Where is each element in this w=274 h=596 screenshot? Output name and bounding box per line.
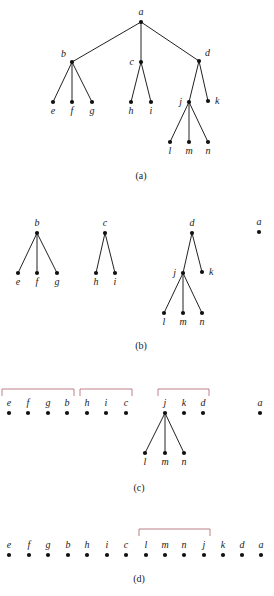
edge-d-j bbox=[189, 61, 199, 102]
node-j bbox=[181, 271, 185, 275]
node-n bbox=[182, 451, 186, 455]
node-label-a: a bbox=[139, 6, 144, 17]
node-d bbox=[197, 59, 201, 63]
edge-d-j bbox=[183, 233, 192, 273]
node-label-c: c bbox=[124, 397, 129, 408]
edge-j-l bbox=[145, 413, 165, 453]
node-l bbox=[162, 311, 166, 315]
node-k bbox=[200, 270, 204, 274]
node-label-c: c bbox=[124, 539, 129, 550]
node-f bbox=[27, 553, 31, 557]
node-e bbox=[51, 100, 55, 104]
node-e bbox=[7, 411, 11, 415]
node-j bbox=[187, 100, 191, 104]
node-a bbox=[259, 553, 263, 557]
node-j bbox=[163, 411, 167, 415]
edge-j-n bbox=[189, 102, 208, 142]
panel-caption: (b) bbox=[135, 340, 147, 352]
node-l bbox=[143, 451, 147, 455]
node-c bbox=[139, 60, 143, 64]
panel-b-root-removed: bcdaefghijklmn(b) bbox=[16, 216, 262, 352]
node-label-n: n bbox=[182, 456, 187, 467]
node-label-j: j bbox=[162, 397, 167, 408]
node-label-f: f bbox=[71, 105, 75, 116]
node-label-j: j bbox=[177, 96, 182, 107]
edge-b-g bbox=[72, 62, 92, 102]
node-label-d: d bbox=[205, 47, 211, 58]
node-n bbox=[182, 553, 186, 557]
node-label-g: g bbox=[46, 397, 51, 408]
node-b bbox=[70, 60, 74, 64]
node-label-g: g bbox=[55, 276, 60, 287]
tree-flattening-figure: abcdefghijklmn(a) bcdaefghijklmn(b) efgb… bbox=[0, 0, 274, 596]
node-d bbox=[190, 231, 194, 235]
node-b bbox=[65, 411, 69, 415]
node-label-i: i bbox=[105, 397, 108, 408]
node-m bbox=[187, 140, 191, 144]
node-label-h: h bbox=[94, 276, 99, 287]
node-label-l: l bbox=[169, 145, 172, 156]
node-label-a: a bbox=[259, 539, 264, 550]
node-k bbox=[182, 411, 186, 415]
node-label-m: m bbox=[185, 145, 192, 156]
node-label-h: h bbox=[85, 539, 90, 550]
node-label-h: h bbox=[85, 397, 90, 408]
node-label-b: b bbox=[66, 539, 71, 550]
node-h bbox=[85, 553, 89, 557]
node-m bbox=[163, 451, 167, 455]
node-label-n: n bbox=[182, 539, 187, 550]
edge-c-i bbox=[105, 233, 115, 273]
node-label-i: i bbox=[114, 276, 117, 287]
node-e bbox=[16, 271, 20, 275]
node-i bbox=[105, 553, 109, 557]
panel-c-partial-flattening: efgbhicjkdalmn(c) bbox=[2, 389, 263, 494]
node-h bbox=[94, 271, 98, 275]
node-label-m: m bbox=[179, 316, 186, 327]
node-i bbox=[113, 271, 117, 275]
edge-j-l bbox=[164, 273, 183, 313]
node-label-j: j bbox=[171, 267, 176, 278]
node-label-b: b bbox=[35, 217, 40, 228]
node-i bbox=[104, 411, 108, 415]
group-bracket bbox=[158, 389, 209, 396]
node-g bbox=[90, 100, 94, 104]
edge-j-n bbox=[183, 273, 202, 313]
node-label-b: b bbox=[61, 48, 66, 59]
node-n bbox=[206, 140, 210, 144]
node-label-f: f bbox=[36, 276, 40, 287]
node-label-g: g bbox=[46, 539, 51, 550]
edge-d-k bbox=[199, 61, 208, 101]
node-j bbox=[202, 553, 206, 557]
node-label-k: k bbox=[182, 397, 187, 408]
edge-c-h bbox=[96, 233, 105, 273]
node-label-i: i bbox=[150, 105, 153, 116]
node-label-d: d bbox=[190, 217, 196, 228]
node-k bbox=[221, 553, 225, 557]
node-label-k: k bbox=[221, 539, 226, 550]
node-label-e: e bbox=[7, 539, 12, 550]
edge-b-e bbox=[18, 233, 37, 273]
node-label-d: d bbox=[201, 397, 207, 408]
panel-caption: (c) bbox=[133, 482, 144, 494]
node-label-e: e bbox=[16, 276, 21, 287]
edge-c-i bbox=[141, 62, 151, 102]
node-n bbox=[200, 311, 204, 315]
node-label-b: b bbox=[65, 397, 70, 408]
node-a bbox=[258, 411, 262, 415]
node-g bbox=[55, 271, 59, 275]
panel-caption: (d) bbox=[133, 573, 145, 585]
node-label-j: j bbox=[201, 539, 206, 550]
node-label-f: f bbox=[28, 539, 32, 550]
node-label-f: f bbox=[27, 397, 31, 408]
node-label-e: e bbox=[51, 105, 56, 116]
node-label-n: n bbox=[206, 145, 211, 156]
node-g bbox=[46, 411, 50, 415]
node-a bbox=[139, 20, 143, 24]
node-f bbox=[70, 100, 74, 104]
group-bracket bbox=[139, 529, 210, 536]
edge-b-e bbox=[53, 62, 72, 102]
edge-j-l bbox=[170, 102, 189, 142]
node-i bbox=[149, 100, 153, 104]
group-bracket bbox=[80, 389, 132, 396]
panel-a-original-tree: abcdefghijklmn(a) bbox=[51, 6, 220, 182]
